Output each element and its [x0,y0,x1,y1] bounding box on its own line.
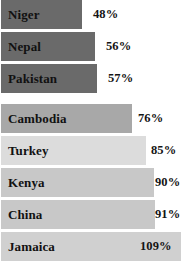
bar-row: Niger48% [0,0,181,29]
bar-category-label: China [8,200,42,229]
bar-category-label: Pakistan [8,64,57,93]
bar-category-label: Nepal [8,32,41,61]
bar-row: Nepal56% [0,32,181,61]
horizontal-bar-chart: Niger48%Nepal56%Pakistan57%Cambodia76%Tu… [0,0,181,261]
bar-value-label: 56% [106,32,131,61]
bar-category-label: Kenya [8,168,45,197]
bar-category-label: Jamaica [8,232,55,261]
bar-value-label: 109% [140,232,172,261]
bar-row: Kenya90% [0,168,181,197]
bar-row: Jamaica109% [0,232,181,261]
bar-row: Turkey85% [0,136,181,165]
bar-value-label: 48% [93,0,118,29]
bar-value-label: 85% [151,136,176,165]
bar-value-label: 57% [108,64,133,93]
bar-row: Pakistan57% [0,64,181,93]
bar-value-label: 76% [138,104,163,133]
bar-row: Cambodia76% [0,104,181,133]
bar-category-label: Cambodia [8,104,67,133]
bar-category-label: Niger [8,0,40,29]
bar-row: China91% [0,200,181,229]
bar-value-label: 90% [155,168,180,197]
bar-value-label: 91% [155,200,180,229]
bar-category-label: Turkey [8,136,49,165]
